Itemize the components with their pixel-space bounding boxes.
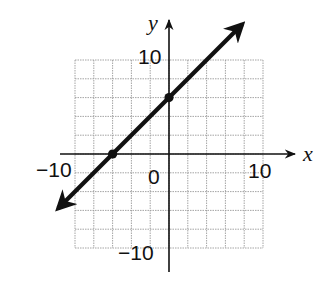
data-point [108,149,117,158]
coordinate-plane: x y −10 0 10 10 −10 [0,0,335,283]
x-axis-label: x [302,141,313,166]
data-point [164,93,173,102]
y-tick-label-10: 10 [138,45,161,68]
y-tick-label-neg10: −10 [118,241,154,264]
origin-label: 0 [148,165,160,188]
x-tick-label-neg10: −10 [36,158,72,181]
x-tick-label-10: 10 [248,159,271,182]
y-axis-label: y [146,10,158,35]
